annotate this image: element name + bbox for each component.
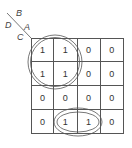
- group-overlays: [0, 0, 132, 148]
- group-quad-top-left: [28, 35, 82, 89]
- karnaugh-map: B D A C 1 1 0 0 1 1 0 0 0 0 0 0 0 1 1 0: [0, 0, 132, 148]
- group-pair-bottom-middle: [54, 108, 102, 136]
